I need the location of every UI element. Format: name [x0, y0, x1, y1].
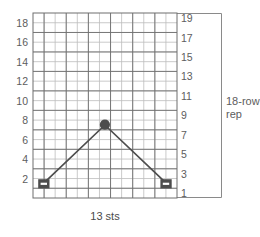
right-tick-9: 9	[181, 110, 203, 121]
travel-lines	[44, 125, 167, 183]
right-travel-line	[105, 125, 166, 183]
left-tick-4: 4	[6, 154, 28, 165]
repeat-label-line1: 18-row	[226, 95, 260, 107]
right-tick-13: 13	[181, 71, 203, 82]
grid-major	[33, 13, 177, 198]
left-tick-14: 14	[6, 57, 28, 68]
left-tick-8: 8	[6, 115, 28, 126]
left-tick-10: 10	[6, 96, 28, 107]
bobble-symbol	[100, 120, 110, 130]
chart-graphics	[0, 0, 260, 237]
purl-symbol-right	[160, 179, 171, 188]
left-tick-18: 18	[6, 18, 28, 29]
left-travel-line	[44, 125, 105, 183]
left-tick-2: 2	[6, 174, 28, 185]
knitting-chart: 18 16 14 12 10 8 6 4 2 19 17 15 13 11 9 …	[0, 0, 260, 237]
right-tick-7: 7	[181, 130, 203, 141]
repeat-label-line2: rep	[226, 108, 242, 120]
grid-frame	[33, 13, 177, 198]
stitch-count-label: 13 sts	[33, 210, 177, 222]
repeat-label: 18-row rep	[226, 95, 260, 121]
right-tick-15: 15	[181, 52, 203, 63]
left-tick-6: 6	[6, 135, 28, 146]
right-tick-3: 3	[181, 169, 203, 180]
left-tick-12: 12	[6, 76, 28, 87]
right-tick-19: 19	[181, 13, 203, 24]
right-tick-17: 17	[181, 33, 203, 44]
left-tick-16: 16	[6, 37, 28, 48]
purl-symbol-left	[38, 179, 49, 188]
right-tick-11: 11	[181, 91, 203, 102]
grid-minor	[33, 13, 177, 198]
right-tick-5: 5	[181, 149, 203, 160]
right-tick-1: 1	[181, 188, 203, 199]
